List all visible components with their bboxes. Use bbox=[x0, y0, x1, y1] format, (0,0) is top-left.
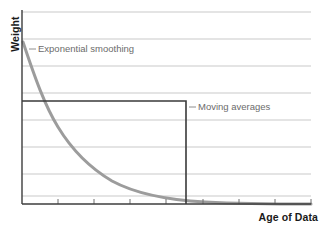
moving-averages-box bbox=[22, 101, 186, 204]
chart-plot-area bbox=[0, 0, 324, 231]
exponential-smoothing-label: Exponential smoothing bbox=[38, 43, 134, 54]
annotation-leader-lines bbox=[29, 49, 196, 107]
chart-figure: Weight Age of Data Exponential smoothing… bbox=[0, 0, 324, 231]
moving-averages-label: Moving averages bbox=[198, 101, 270, 112]
x-axis-title: Age of Data bbox=[259, 211, 318, 223]
y-axis-title: Weight bbox=[9, 6, 21, 62]
